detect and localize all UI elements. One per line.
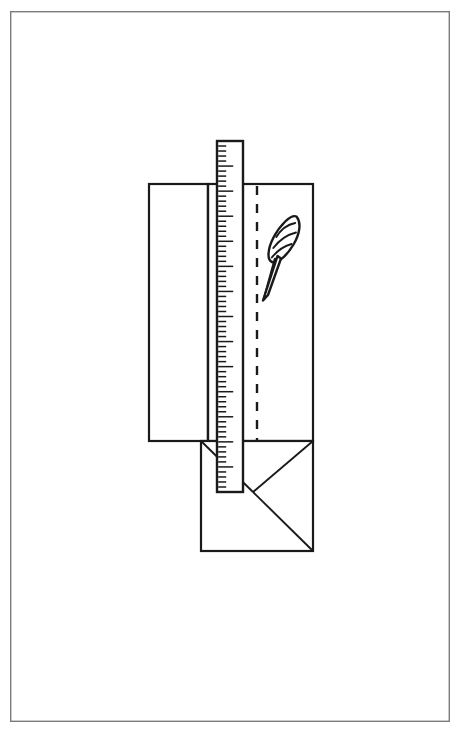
left-fold-panel [149, 184, 208, 441]
envelope-folding-illustration [0, 0, 469, 733]
measuring-ruler [217, 141, 243, 492]
figure-root: Envelope Folding Diagram Black and white… [0, 0, 469, 733]
